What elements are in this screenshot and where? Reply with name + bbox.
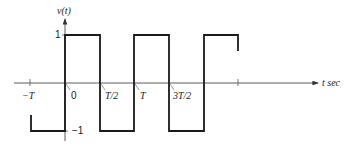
y-tick-label-minus-one: −1 [72, 125, 84, 136]
x-tick-label-minus-T: −T [22, 90, 36, 101]
leader-0 [66, 84, 70, 90]
square-wave-diagram: v(t) 1 −1 −T 0 T/2 T 3T/2 t sec [0, 0, 354, 148]
x-axis-label: t sec [322, 77, 341, 88]
x-tick-label-T: T [140, 90, 147, 101]
x-tick-label-3T-half: 3T/2 [172, 90, 191, 101]
x-tick-label-T-half: T/2 [105, 90, 118, 101]
y-axis-label: v(t) [57, 5, 72, 17]
y-tick-label-one: 1 [55, 29, 61, 40]
x-tick-label-0: 0 [71, 90, 77, 101]
leader-T [135, 84, 139, 90]
